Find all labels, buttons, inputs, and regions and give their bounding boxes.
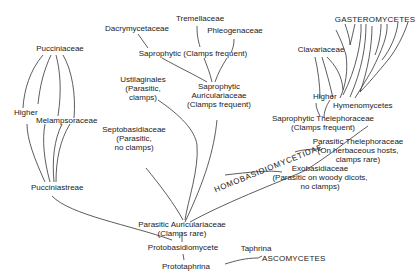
ustilaginales-line-1: Ustilaginales xyxy=(120,75,165,84)
septo-line-2: (Parasitic, xyxy=(102,134,166,143)
branch-melamps-1 xyxy=(44,124,50,182)
branch-tremellaceae xyxy=(197,26,200,47)
label-pucciniastreae: Pucciniastreae xyxy=(31,183,83,192)
ustilaginales-line-2: (Parasitic, xyxy=(120,84,165,93)
branch-gastero-left-1 xyxy=(336,30,347,98)
branch-gastero-3 xyxy=(343,24,361,95)
label-ascomycetes: ASCOMYCETES xyxy=(262,254,326,263)
branch-ustilaginales xyxy=(158,100,197,220)
branch-gastero-6 xyxy=(375,24,381,55)
exobasidi-line-3: no clamps) xyxy=(272,182,367,191)
label-higher-right: Higher xyxy=(313,92,337,101)
label-septobasidiaceae: Septobasidiaceae (Parasitic, no clamps) xyxy=(102,125,166,152)
para-auric-line-2: (Clamps rare) xyxy=(138,229,226,238)
sapro-auric-line-3: (Clamps frequent) xyxy=(187,100,251,109)
label-protobasidiomycete: Protobasidiomycete xyxy=(148,243,218,252)
septo-line-3: no clamps) xyxy=(102,143,166,152)
branch-saprophytic-mid xyxy=(204,58,212,82)
branch-gastero-2 xyxy=(350,24,355,45)
label-parasitic-auriculariaceae: Parasitic Auriculariaceae (Clamps rare) xyxy=(138,220,226,238)
label-taphrina: Taphrina xyxy=(241,244,272,253)
label-hymenomycetes: Hymenomycetes xyxy=(333,101,393,110)
branch-melamps-2 xyxy=(53,124,62,182)
branch-saprophytic-right xyxy=(215,58,227,82)
sapro-theleph-line-1: Saprophytic Thelephoraceae xyxy=(272,114,374,123)
label-saprophytic-thelephoraceae: Saprophytic Thelephoraceae (Clamps frequ… xyxy=(272,114,374,132)
label-gasteromycetes: GASTEROMYCETES xyxy=(335,15,416,24)
branch-pucciniaceae-2 xyxy=(38,55,51,104)
para-theleph-line-1: Parasitic Thelephoraceae xyxy=(313,137,404,146)
label-tremellaceae: Tremellaceae xyxy=(176,14,224,23)
label-saprophytic-auriculariaceae: Saprophytic Auriculariaceae (Clamps freq… xyxy=(187,82,251,109)
branch-saprophytic-auric xyxy=(185,120,217,222)
label-higher-left: Higher xyxy=(14,108,38,117)
label-pucciniaceae: Pucciniaceae xyxy=(36,44,84,53)
para-theleph-line-2: (On herbaceous hosts, xyxy=(313,146,404,155)
branch-gastero-7 xyxy=(355,24,387,98)
sapro-auric-line-2: Auriculariaceae xyxy=(187,91,251,100)
branch-prototaphrina-ascomycetes xyxy=(225,256,262,264)
branch-pucciniaceae-4 xyxy=(63,55,75,118)
label-prototaphrina: Prototaphrina xyxy=(162,262,210,271)
branch-dacrymycetaceae xyxy=(138,34,148,48)
branch-gastero-1 xyxy=(345,24,350,45)
branch-protobasidio-prototaphrina xyxy=(183,254,184,260)
para-auric-line-1: Parasitic Auriculariaceae xyxy=(138,220,226,229)
branch-higher-down xyxy=(27,124,45,182)
label-clavariaceae: Clavariaceae xyxy=(298,45,345,54)
branch-pucciniaceae-3 xyxy=(56,55,60,116)
sapro-auric-line-1: Saprophytic xyxy=(187,82,251,91)
label-ustilaginales: Ustilaginales (Parasitic, clamps) xyxy=(120,75,165,102)
para-theleph-line-3: clamps rare) xyxy=(313,155,404,164)
label-dacrymycetaceae: Dacrymycetaceae xyxy=(105,24,169,33)
label-parasitic-thelephoraceae: Parasitic Thelephoraceae (On herbaceous … xyxy=(313,137,404,164)
exobasidi-line-2: (Parasitic on woody dicots, xyxy=(272,173,367,182)
label-exobasidiaceae: Exobasidiaceae (Parasitic on woody dicot… xyxy=(272,164,367,191)
branch-septobasidiaceae xyxy=(146,168,183,220)
label-melampsoraceae: Melampsoraceae xyxy=(36,116,97,125)
branch-pucciniaceae-1 xyxy=(23,55,43,108)
branch-clav-3 xyxy=(327,57,343,90)
branch-gastero-5 xyxy=(360,26,372,92)
septo-line-1: Septobasidiaceae xyxy=(102,125,166,134)
ustilaginales-line-3: clamps) xyxy=(120,93,165,102)
branch-saprophytic-left xyxy=(162,58,207,82)
sapro-theleph-line-2: (Clamps frequent) xyxy=(272,123,374,132)
label-phleogenaceae: Phleogenaceae xyxy=(207,26,263,35)
label-saprophytic-clamps-frequent: Saprophytic (Clamps frequent) xyxy=(139,49,248,58)
